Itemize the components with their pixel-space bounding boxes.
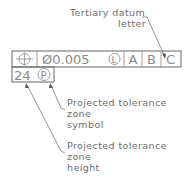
callout-tertiary-line1: Tertiary datum [69, 7, 145, 18]
arrowhead-icon [25, 83, 29, 88]
callout-symbol-line1: Projected tolerance [67, 97, 167, 108]
datum-a: A [129, 52, 138, 67]
callout-symbol-line2: zone [67, 108, 91, 119]
datum-b: B [147, 52, 156, 67]
arrowhead-icon [49, 83, 53, 88]
projected-zone-modifier-letter: P [41, 70, 47, 81]
datum-c: C [166, 52, 175, 67]
callout-height-line1: Projected tolerance [67, 140, 167, 151]
feature-control-frame-diagram: Tertiary datum letter Ø0.005 L A B C 24 … [0, 0, 188, 183]
lmc-modifier-letter: L [112, 55, 117, 65]
callout-height-line3: height [67, 162, 100, 173]
position-icon [16, 53, 33, 66]
leader-height [27, 85, 65, 153]
callout-height-line2: zone [67, 151, 91, 162]
tolerance-value: Ø0.005 [42, 52, 89, 67]
leader-symbol [51, 85, 65, 110]
callout-tertiary-line2: letter [118, 18, 146, 29]
projected-zone-height: 24 [14, 68, 31, 83]
callout-symbol-line3: symbol [67, 119, 104, 130]
feature-control-frame: Ø0.005 L A B C 24 P [12, 51, 181, 83]
